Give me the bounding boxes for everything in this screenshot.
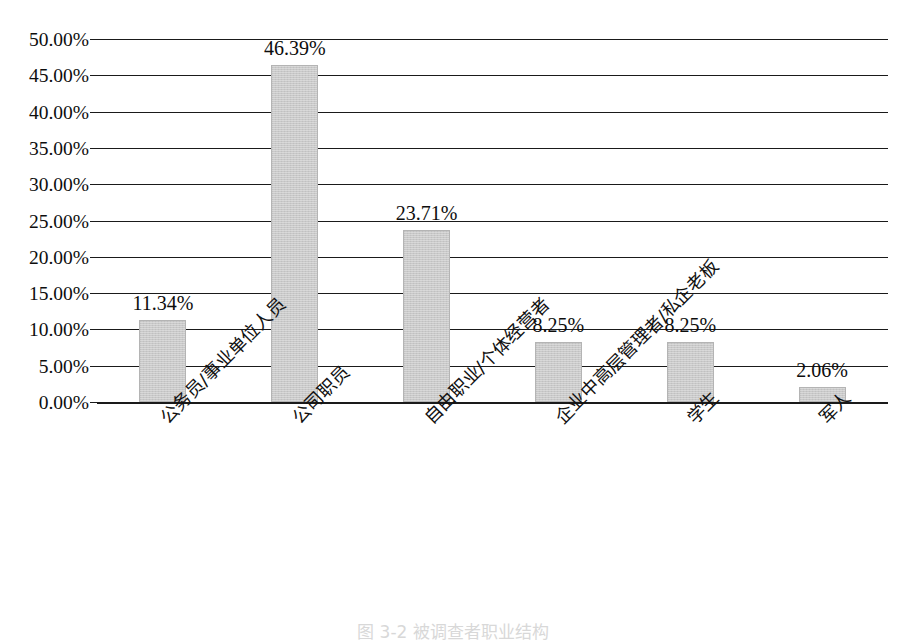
y-axis-tick-label: 20.00%	[5, 248, 89, 268]
gridline-45.00	[97, 75, 888, 76]
y-axis-tick-label: 45.00%	[5, 66, 89, 86]
y-tick-mark	[90, 221, 97, 222]
gridline-20.00	[97, 257, 888, 258]
y-tick-mark	[90, 148, 97, 149]
y-tick-mark	[90, 402, 97, 403]
y-tick-mark	[90, 112, 97, 113]
gridline-50.00	[97, 39, 888, 40]
gridline-30.00	[97, 184, 888, 185]
y-tick-mark	[90, 293, 97, 294]
y-axis-tick-label: 25.00%	[5, 212, 89, 232]
bar-value-label: 46.39%	[235, 38, 355, 58]
y-tick-mark	[90, 366, 97, 367]
y-axis-tick-label: 50.00%	[5, 30, 89, 50]
y-tick-mark	[90, 329, 97, 330]
bar-value-label: 11.34%	[103, 293, 223, 313]
bar-value-label: 23.71%	[367, 203, 487, 223]
y-tick-mark	[90, 257, 97, 258]
y-axis-tick-label: 5.00%	[5, 357, 89, 377]
y-tick-mark	[90, 75, 97, 76]
gridline-0.00	[97, 402, 888, 404]
bar-value-label: 2.06%	[762, 360, 882, 380]
y-tick-mark	[90, 39, 97, 40]
bar	[403, 230, 450, 402]
bar	[271, 65, 318, 402]
figure-caption: 图 3-2 被调查者职业结构	[0, 622, 906, 642]
y-axis-tick-label: 35.00%	[5, 139, 89, 159]
y-axis-tick-label: 10.00%	[5, 320, 89, 340]
gridline-40.00	[97, 112, 888, 113]
y-axis-tick-label: 40.00%	[5, 103, 89, 123]
y-tick-mark	[90, 184, 97, 185]
gridline-10.00	[97, 329, 888, 330]
gridline-25.00	[97, 221, 888, 222]
y-axis-tick-label: 0.00%	[5, 393, 89, 413]
y-axis-tick-label: 30.00%	[5, 175, 89, 195]
y-axis-tick-label: 15.00%	[5, 284, 89, 304]
gridline-35.00	[97, 148, 888, 149]
